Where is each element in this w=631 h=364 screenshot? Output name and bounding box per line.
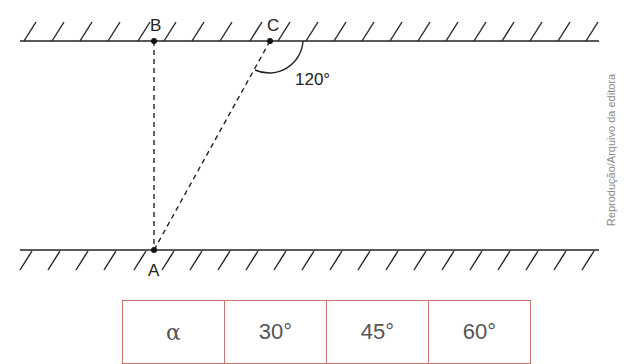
- top-bank-hatching: [24, 22, 598, 41]
- label-c: C: [267, 16, 279, 35]
- table-cell-60: 60°: [429, 301, 531, 364]
- table-cell-45: 45°: [327, 301, 429, 364]
- angle-arc: [255, 41, 303, 73]
- table-cell-30: 30°: [225, 301, 327, 364]
- segment-ac: [154, 41, 270, 250]
- table-cell-alpha: α: [123, 301, 225, 364]
- image-credit: Reprodução/Arquivo da editora: [605, 74, 617, 226]
- label-b: B: [150, 16, 161, 35]
- label-a: A: [148, 261, 160, 280]
- bottom-bank-hatching: [20, 251, 594, 270]
- angle-table: α 30° 45° 60°: [122, 300, 531, 364]
- point-a: [151, 247, 157, 253]
- point-c: [267, 38, 273, 44]
- point-b: [151, 38, 157, 44]
- table-row: α 30° 45° 60°: [123, 301, 531, 364]
- angle-label: 120°: [295, 70, 330, 89]
